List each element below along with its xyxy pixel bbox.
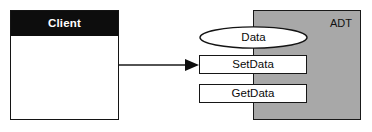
getdata-label: GetData — [232, 88, 275, 100]
adt-label: ADT — [330, 18, 352, 29]
client-box: Client — [10, 10, 119, 120]
diagram-canvas: Client ADT Data SetData GetData — [0, 0, 372, 132]
data-ellipse: Data — [199, 26, 308, 49]
client-to-setdata-arrow — [119, 58, 200, 72]
client-header: Client — [11, 11, 118, 36]
setdata-box: SetData — [199, 55, 307, 74]
setdata-label: SetData — [232, 59, 274, 71]
client-title: Client — [48, 18, 81, 30]
client-body — [11, 36, 118, 119]
getdata-box: GetData — [199, 84, 307, 103]
